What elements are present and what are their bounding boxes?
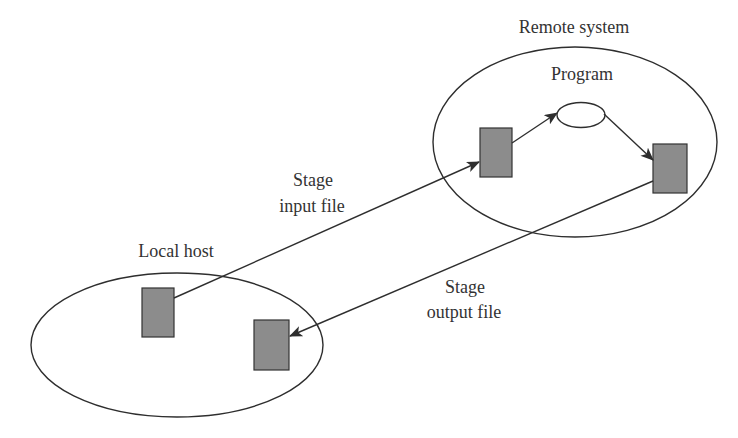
stage-input-label-line2: input file <box>279 196 345 216</box>
stage-output-label-line1: Stage <box>445 277 485 297</box>
local-input-file <box>142 288 174 337</box>
arrow-program-to-output <box>604 114 653 160</box>
diagram-svg: Remote system Program Local host Stage i… <box>0 0 738 438</box>
arrow-input-to-program <box>512 113 557 143</box>
local-output-file <box>254 320 289 370</box>
diagram-canvas: Remote system Program Local host Stage i… <box>0 0 738 438</box>
remote-system-label: Remote system <box>519 17 630 37</box>
remote-system-region: Remote system Program <box>433 17 717 237</box>
program-node <box>557 103 605 128</box>
stage-input-label-line1: Stage <box>293 170 333 190</box>
local-host-label: Local host <box>138 241 213 261</box>
stage-input-edge: Stage input file <box>174 162 479 298</box>
local-host-region: Local host <box>31 241 323 417</box>
remote-input-file <box>480 128 512 177</box>
remote-output-file <box>653 144 687 193</box>
stage-output-label-line2: output file <box>427 302 502 322</box>
program-label: Program <box>551 64 613 84</box>
